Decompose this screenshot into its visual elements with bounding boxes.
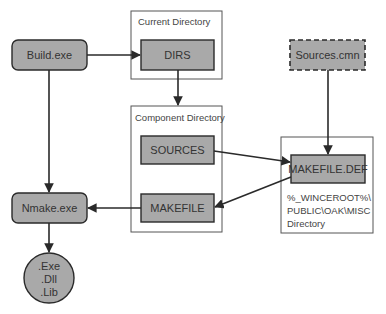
build-exe-label: Build.exe [27,49,72,61]
node-sources-cmn: Sources.cmn [290,40,365,70]
makefile-def-label: MAKEFILE.DEF [288,163,368,175]
misc-directory-line-3: Directory [287,218,325,229]
makefile-label: MAKEFILE [150,202,204,214]
nmake-exe-label: Nmake.exe [22,202,78,214]
output-lib-label: .Lib [40,286,58,298]
misc-directory-line-1: %_WINCEROOT%\ [287,192,371,203]
node-makefile-def: MAKEFILE.DEF [288,155,368,183]
misc-directory-line-2: PUBLIC\OAK\MISC [287,205,371,216]
node-nmake-exe: Nmake.exe [12,193,87,223]
dirs-label: DIRS [164,49,190,61]
node-outputs: .Exe .Dll .Lib [24,253,74,303]
misc-directory-container: %_WINCEROOT%\ PUBLIC\OAK\MISC Directory [281,137,373,233]
node-dirs: DIRS [141,40,214,70]
edge-makefiledef-to-makefile [215,177,291,207]
output-dll-label: .Dll [41,273,57,285]
node-sources: SOURCES [141,136,214,164]
build-process-diagram: Current Directory Component Directory %_… [0,0,386,314]
output-exe-label: .Exe [38,260,60,272]
sources-cmn-label: Sources.cmn [295,49,359,61]
edge-sources-to-makefiledef [214,151,290,162]
component-directory-label: Component Directory [135,112,225,123]
current-directory-label: Current Directory [138,16,211,27]
sources-label: SOURCES [150,144,204,156]
node-makefile: MAKEFILE [141,194,214,222]
node-build-exe: Build.exe [12,40,87,70]
